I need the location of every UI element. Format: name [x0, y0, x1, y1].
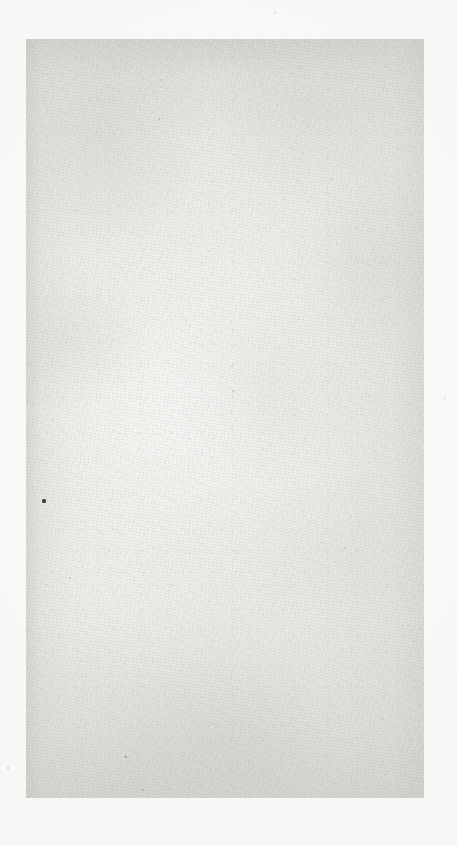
speck-margin-lower [7, 767, 9, 769]
scan-canvas [0, 0, 457, 845]
scanned-page-sheet [26, 39, 424, 798]
speck-margin-right [444, 397, 446, 399]
page-text-layer [26, 39, 424, 798]
speck-margin-top [274, 12, 276, 14]
